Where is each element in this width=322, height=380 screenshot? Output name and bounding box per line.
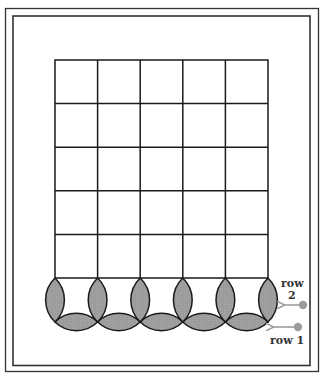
row2-label-line2: 2 [288,289,296,302]
diagram-svg: row 2 row 1 [0,0,322,380]
grid [55,60,268,278]
row1-label: row 1 [270,334,304,347]
diagram-canvas: row 2 row 1 [0,0,322,380]
row1-petals [55,313,268,330]
row1-arrow-icon [272,323,302,331]
row2-arrow-icon [283,301,307,309]
